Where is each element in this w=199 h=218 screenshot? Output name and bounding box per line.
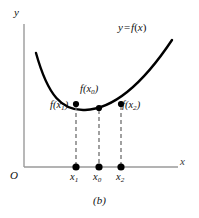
curve-point-x1 [73, 101, 79, 107]
graph-canvas [0, 0, 199, 218]
value-label-fx1: f(x1) [50, 100, 68, 112]
value-label-fx0-sub: 0 [91, 88, 95, 96]
axis-point-x1 [72, 163, 79, 170]
value-label-fx1-sub: 1 [61, 104, 65, 112]
value-label-fx0-f: f [80, 83, 83, 94]
value-label-fx2: f(x2) [122, 100, 140, 112]
value-label-fx1-f: f [50, 99, 53, 110]
tick-label-x1-sub: 1 [75, 176, 79, 184]
axis-point-x0 [95, 163, 102, 170]
tick-label-x0: x0 [93, 172, 101, 184]
curve-point-x0 [96, 105, 102, 111]
y-axis-label: y [14, 7, 19, 18]
curve-equation-close-paren: ) [143, 21, 147, 33]
curve-equation-label: y=f(x) [118, 22, 146, 33]
curve-equation-equals: = [123, 21, 131, 33]
tick-label-x2: x2 [116, 172, 124, 184]
tick-label-x1: x1 [70, 172, 78, 184]
tick-label-x0-sub: 0 [98, 176, 102, 184]
axis-point-x2 [117, 163, 124, 170]
x-axis-label: x [180, 156, 185, 167]
figure-container: y x O y=f(x) f(x0) f(x1) f(x2) x1 x0 x2 … [0, 0, 199, 218]
figure-caption: (b) [0, 194, 199, 206]
value-label-fx2-f: f [122, 99, 125, 110]
tick-label-x2-sub: 2 [121, 176, 125, 184]
origin-label: O [10, 170, 18, 181]
value-label-fx2-sub: 2 [133, 104, 137, 112]
value-label-fx0: f(x0) [80, 84, 98, 96]
